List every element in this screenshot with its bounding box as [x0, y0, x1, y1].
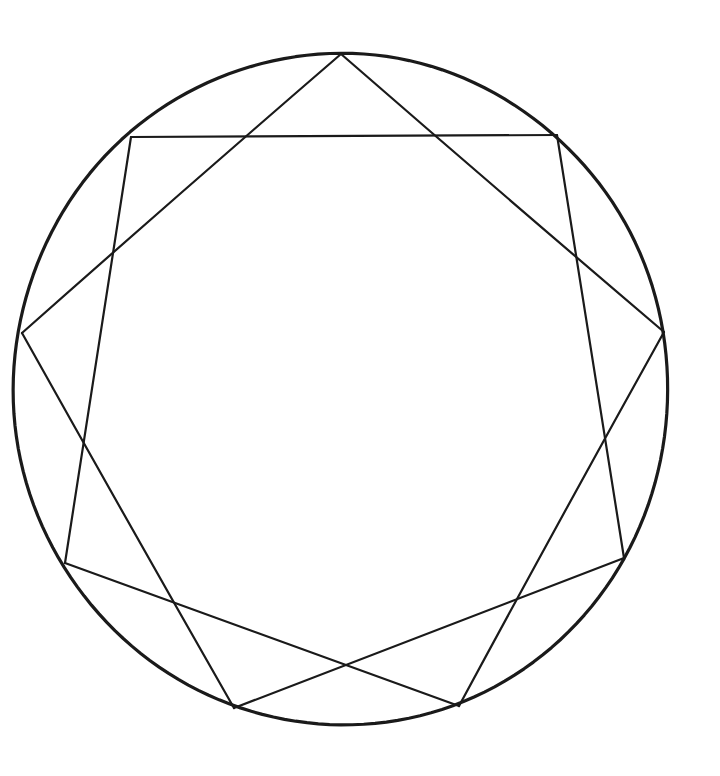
geometry-figure-canvas: Nine-pointed star polygon inscribed in a… [0, 0, 720, 776]
